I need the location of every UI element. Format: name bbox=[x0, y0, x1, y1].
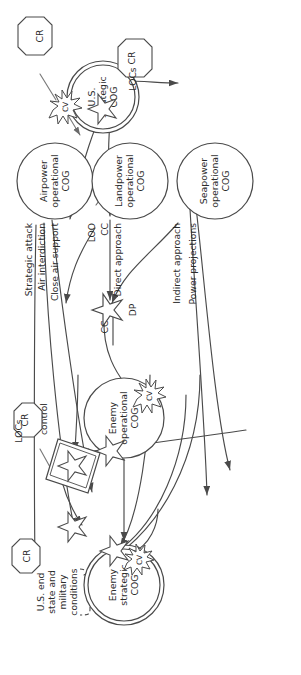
landpower-cog-line-3: COG bbox=[135, 170, 146, 191]
cr-label-bottom-right: CR bbox=[126, 51, 137, 64]
landpower-cog-line-2: operational bbox=[124, 154, 135, 207]
label-strategic-attack: Strategic attack bbox=[23, 222, 34, 296]
line-label-power-projections: Power projections bbox=[187, 223, 198, 305]
label-air-interdiction: Air interdiction bbox=[36, 223, 47, 291]
end-state-line-4: conditions bbox=[68, 568, 79, 615]
airpower-cog-line-3: COG bbox=[60, 170, 71, 191]
cv-label-enemy-strategic: CV bbox=[135, 555, 144, 565]
airpower-cog-line-2: operational bbox=[49, 154, 60, 207]
node-airpower-operational-cog[interactable]: Airpower operational COG bbox=[17, 143, 93, 219]
line-label-air-interdiction: Air interdiction bbox=[36, 223, 47, 291]
label-close-air-support: Close air support bbox=[49, 223, 60, 302]
cr-octagon-bottom-left[interactable]: CR bbox=[18, 17, 52, 55]
label-locs-top: LOCs bbox=[13, 419, 24, 442]
us-strategic-cog-line-1: U.S. bbox=[86, 88, 97, 107]
label-cc-landpower: CC bbox=[99, 223, 110, 236]
cr-octagon-top-left[interactable]: CR bbox=[12, 539, 40, 573]
diagram-landscape-canvas: U.S. end state and military conditions E… bbox=[0, 0, 301, 675]
label-indirect-approach: Indirect approach bbox=[171, 223, 182, 304]
enemy-strategic-cog-line-3: COG bbox=[129, 574, 140, 595]
seapower-cog-line-2: operational bbox=[209, 154, 220, 207]
line-label-locs-bottom: LOCs bbox=[127, 67, 138, 90]
line-label-loo: LOO bbox=[86, 223, 97, 242]
landpower-cog-line-1: Landpower bbox=[113, 155, 124, 207]
label-locs-bottom: LOCs bbox=[127, 67, 138, 90]
line-label-cc-enemy-op: CC bbox=[99, 321, 110, 334]
figure-canvas: U.S. end state and military conditions E… bbox=[0, 0, 301, 675]
label-direct-approach: Direct approach bbox=[112, 223, 123, 297]
seapower-cog-line-1: Seapower bbox=[198, 158, 209, 205]
cv-label-enemy-operational: CV bbox=[145, 391, 154, 401]
enemy-strategic-cog-line-1: Enemy bbox=[107, 568, 118, 601]
label-power-projections: Power projections bbox=[187, 223, 198, 305]
cr-label-bottom-left: CR bbox=[34, 29, 45, 42]
end-state-line-3: military bbox=[57, 574, 68, 610]
dp-star-near-cr[interactable] bbox=[58, 512, 86, 542]
label-loo: LOO bbox=[86, 223, 97, 242]
enemy-operational-cog-line-3: COG bbox=[129, 407, 140, 428]
end-state-label: U.S. end state and military conditions bbox=[35, 568, 79, 615]
node-seapower-operational-cog[interactable]: Seapower operational COG bbox=[177, 143, 253, 219]
dp-label-main: DP bbox=[127, 303, 138, 316]
line-label-cc-landpower: CC bbox=[99, 223, 110, 236]
enemy-operational-cog-line-1: Enemy bbox=[107, 401, 118, 434]
line-label-close-air-support: Close air support bbox=[49, 223, 60, 302]
enemy-operational-cog-line-2: operational bbox=[118, 391, 129, 444]
edge-cr-top-to-sea-control bbox=[40, 449, 50, 467]
operational-design-diagram: U.S. end state and military conditions E… bbox=[0, 0, 301, 675]
end-state-line-1: U.S. end bbox=[35, 573, 46, 612]
label-cc-enemy-op: CC bbox=[99, 321, 110, 334]
end-state-line-2: state and bbox=[46, 570, 57, 613]
line-label-locs-top: LOCs bbox=[13, 419, 24, 442]
airpower-cog-line-1: Airpower bbox=[38, 160, 49, 202]
line-label-direct-approach: Direct approach bbox=[112, 223, 123, 297]
cv-label-us-strategic: CV bbox=[61, 102, 70, 112]
node-landpower-operational-cog[interactable]: Landpower operational COG bbox=[92, 143, 168, 219]
cr-label-top-left: CR bbox=[21, 549, 32, 562]
line-label-indirect-approach: Indirect approach bbox=[171, 223, 182, 304]
line-label-strategic-attack: Strategic attack bbox=[23, 222, 34, 296]
seapower-cog-line-3: COG bbox=[220, 170, 231, 191]
